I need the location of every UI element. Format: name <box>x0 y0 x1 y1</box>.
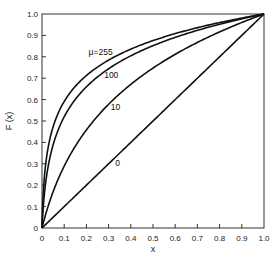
x-tick-label: 0.5 <box>147 234 159 243</box>
x-axis-ticks: 00.10.20.30.40.50.60.70.80.91.0 <box>40 224 270 243</box>
chart: 00.10.20.30.40.50.60.70.80.91.0 00.10.20… <box>0 0 277 260</box>
y-tick-label: 0.8 <box>27 53 39 62</box>
y-tick-label: 0.4 <box>27 138 39 147</box>
x-tick-label: 0.4 <box>125 234 137 243</box>
curve-label: 10 <box>111 102 121 112</box>
x-tick-label: 0 <box>40 234 45 243</box>
y-tick-label: 0.9 <box>27 31 39 40</box>
y-tick-label: 0.6 <box>27 96 39 105</box>
x-tick-label: 0.3 <box>103 234 115 243</box>
y-axis-title: F (x) <box>4 112 14 131</box>
x-tick-label: 0.1 <box>59 234 71 243</box>
x-tick-label: 0.7 <box>192 234 204 243</box>
y-tick-label: 0.5 <box>27 117 39 126</box>
x-axis-title: x <box>151 244 156 254</box>
x-tick-label: 0.9 <box>236 234 248 243</box>
x-tick-label: 0.2 <box>81 234 93 243</box>
y-tick-label: 1.0 <box>27 10 39 19</box>
y-tick-label: 0.7 <box>27 74 39 83</box>
curves <box>42 14 264 228</box>
x-tick-label: 0.6 <box>170 234 182 243</box>
x-tick-label: 1.0 <box>258 234 270 243</box>
y-tick-label: 0.1 <box>27 203 39 212</box>
y-tick-label: 0 <box>34 224 39 233</box>
x-tick-label: 0.8 <box>214 234 226 243</box>
curve-label: μ=255 <box>89 47 113 57</box>
y-tick-label: 0.2 <box>27 181 39 190</box>
curve-label: 0 <box>115 158 120 168</box>
curve-label: 100 <box>104 70 118 80</box>
y-tick-label: 0.3 <box>27 160 39 169</box>
